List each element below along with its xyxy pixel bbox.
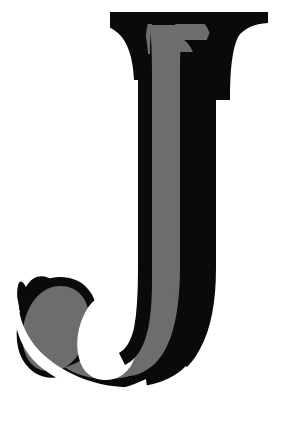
glyph-canvas: J Serif capital J with bracketed top ser… <box>0 0 303 423</box>
glyph-top-serif-path <box>95 12 268 23</box>
capital-j-glyph <box>0 0 303 423</box>
